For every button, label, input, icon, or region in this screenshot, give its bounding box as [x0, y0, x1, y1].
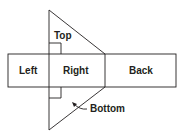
label-top: Top	[54, 30, 72, 41]
label-back: Back	[129, 65, 153, 76]
prism-net-diagram: Top Left Right Back Bottom	[0, 0, 189, 137]
top-right-angle-marker	[49, 43, 61, 54]
label-right: Right	[63, 65, 89, 76]
bottom-right-angle-marker	[49, 87, 61, 98]
label-bottom: Bottom	[90, 103, 125, 114]
label-left: Left	[19, 65, 38, 76]
